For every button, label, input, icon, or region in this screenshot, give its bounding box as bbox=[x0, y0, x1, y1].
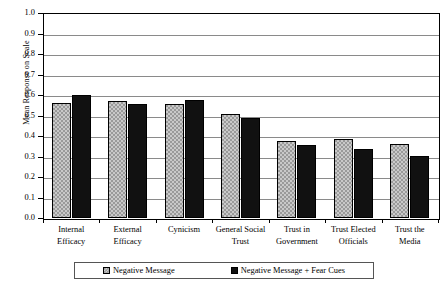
gridlines bbox=[44, 14, 439, 219]
legend-item[interactable]: Negative Message bbox=[103, 266, 175, 275]
x-axis-category-label-line1: Trust in bbox=[284, 225, 310, 234]
x-axis-category-label-line2: Officials bbox=[325, 236, 381, 248]
x-axis-tick-mark bbox=[43, 219, 44, 223]
x-axis-category-label: ExternalEfficacy bbox=[99, 224, 155, 247]
y-axis-tick-label: 0.1 bbox=[25, 192, 35, 203]
x-axis-category-label: InternalEfficacy bbox=[43, 224, 99, 247]
x-axis-category-label-line2: Trust bbox=[212, 236, 268, 248]
gridline bbox=[44, 117, 439, 118]
x-axis-tick-mark bbox=[99, 219, 100, 223]
x-axis-tick-mark bbox=[212, 219, 213, 223]
y-axis-tick-label: 0.5 bbox=[25, 110, 35, 121]
x-axis-category-label-line2: Efficacy bbox=[99, 236, 155, 248]
legend-label: Negative Message bbox=[113, 266, 175, 275]
x-axis-category-label: Cynicism bbox=[156, 224, 212, 247]
x-axis-category-label-line2: Government bbox=[269, 236, 325, 248]
y-axis-tick-label: 0.6 bbox=[25, 89, 35, 100]
x-axis-tick-mark bbox=[382, 219, 383, 223]
chart-legend: Negative MessageNegative Message + Fear … bbox=[74, 262, 374, 279]
x-axis-category-label-line1: External bbox=[113, 225, 141, 234]
y-axis-tick-label: 0.9 bbox=[25, 28, 35, 39]
x-axis-tick-mark bbox=[438, 219, 439, 223]
legend-item[interactable]: Negative Message + Fear Cues bbox=[231, 266, 345, 275]
y-axis-tick-label: 0.8 bbox=[25, 48, 35, 59]
x-axis-category-label-line1: Internal bbox=[58, 225, 84, 234]
legend-swatch-negative-message bbox=[103, 267, 110, 274]
gridline bbox=[44, 178, 439, 179]
gridline bbox=[44, 158, 439, 159]
legend-swatch-negative-message-fear-cues bbox=[231, 267, 238, 274]
y-axis-tick-labels: 1.00.90.80.70.60.50.40.30.20.10.0 bbox=[0, 13, 43, 218]
x-axis-category-label-line2: Efficacy bbox=[43, 236, 99, 248]
bar-chart: Mean Response on Scale 1.00.90.80.70.60.… bbox=[0, 0, 446, 285]
gridline bbox=[44, 199, 439, 200]
gridline bbox=[44, 96, 439, 97]
x-axis-category-label-line1: Trust the bbox=[395, 225, 425, 234]
y-axis-tick-label: 0.0 bbox=[25, 212, 35, 223]
x-axis-category-label-line2: Media bbox=[382, 236, 438, 248]
x-axis-category-labels: InternalEfficacyExternalEfficacyCynicism… bbox=[43, 224, 438, 247]
x-axis-category-label-line1: Cynicism bbox=[168, 225, 200, 234]
x-axis-category-label: General SocialTrust bbox=[212, 224, 268, 247]
gridline bbox=[44, 76, 439, 77]
y-axis-tick-label: 1.0 bbox=[25, 7, 35, 18]
y-axis-tick-label: 0.3 bbox=[25, 151, 35, 162]
gridline bbox=[44, 35, 439, 36]
y-axis-tick-label: 0.7 bbox=[25, 69, 35, 80]
gridline bbox=[44, 55, 439, 56]
x-axis-category-label-line1: General Social bbox=[216, 225, 266, 234]
y-axis-tick-label: 0.2 bbox=[25, 171, 35, 182]
gridline bbox=[44, 137, 439, 138]
x-axis-tick-mark bbox=[269, 219, 270, 223]
plot-area bbox=[43, 13, 440, 220]
x-axis-category-label-line1: Trust Elected bbox=[331, 225, 376, 234]
x-axis-tick-mark bbox=[156, 219, 157, 223]
x-axis-tick-mark bbox=[325, 219, 326, 223]
x-axis-category-label: Trust inGovernment bbox=[269, 224, 325, 247]
x-axis-category-label: Trust theMedia bbox=[382, 224, 438, 247]
y-axis-tick-label: 0.4 bbox=[25, 130, 35, 141]
x-axis-category-label: Trust ElectedOfficials bbox=[325, 224, 381, 247]
legend-label: Negative Message + Fear Cues bbox=[241, 266, 345, 275]
